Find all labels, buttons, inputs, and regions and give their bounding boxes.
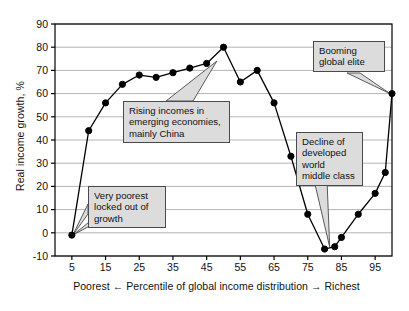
y-tick-label-60: 60 xyxy=(36,87,48,99)
data-point xyxy=(153,74,159,80)
annotation-tail-booming xyxy=(347,73,390,94)
x-tick-label-85: 85 xyxy=(336,261,348,273)
y-axis-ticks: -100102030405060708090 xyxy=(33,18,55,262)
x-tick-label-15: 15 xyxy=(100,261,112,273)
data-point xyxy=(338,234,344,240)
data-point xyxy=(254,67,260,73)
data-point xyxy=(119,81,125,87)
annotation-decline-middle-class: Decline of developed world middle class xyxy=(296,132,363,186)
data-point xyxy=(288,153,294,159)
y-tick-label-20: 20 xyxy=(36,180,48,192)
x-tick-label-75: 75 xyxy=(302,261,314,273)
data-point xyxy=(332,244,338,250)
annotation-very-poorest: Very poorest locked out of growth xyxy=(88,186,166,228)
x-tick-label-55: 55 xyxy=(235,261,247,273)
data-point xyxy=(187,65,193,71)
data-point xyxy=(389,91,395,97)
data-point xyxy=(136,72,142,78)
data-point xyxy=(237,79,243,85)
x-tick-label-95: 95 xyxy=(369,261,381,273)
x-tick-label-35: 35 xyxy=(167,261,179,273)
data-point xyxy=(382,169,388,175)
y-tick-label-30: 30 xyxy=(36,157,48,169)
data-point xyxy=(204,60,210,66)
data-point xyxy=(170,70,176,76)
data-point xyxy=(220,44,226,50)
y-tick-label-80: 80 xyxy=(36,41,48,53)
x-tick-label-25: 25 xyxy=(133,261,145,273)
annotation-tail-decline xyxy=(314,180,330,247)
data-point xyxy=(355,211,361,217)
y-tick-label-70: 70 xyxy=(36,64,48,76)
data-point xyxy=(86,128,92,134)
y-tick-label-10: 10 xyxy=(36,203,48,215)
y-tick-label-0: 0 xyxy=(42,227,48,239)
data-point xyxy=(69,232,75,238)
x-tick-label-45: 45 xyxy=(201,261,213,273)
x-tick-label-5: 5 xyxy=(69,261,75,273)
x-axis-title: Poorest ← Percentile of global income di… xyxy=(0,280,409,292)
annotation-booming-global-elite: Booming global elite xyxy=(313,41,385,72)
data-point xyxy=(271,100,277,106)
elephant-chart: Real income growth, % -10010203040506070… xyxy=(0,0,409,311)
annotation-rising-incomes: Rising incomes in emerging economies, ma… xyxy=(123,101,230,143)
data-point xyxy=(102,100,108,106)
x-axis-ticks: 5152535455565758595 xyxy=(69,256,381,273)
data-point xyxy=(305,211,311,217)
y-tick-label-90: 90 xyxy=(36,18,48,30)
y-tick-label-40: 40 xyxy=(36,134,48,146)
data-point xyxy=(322,246,328,252)
y-tick-label--10: -10 xyxy=(33,250,48,262)
x-tick-label-65: 65 xyxy=(268,261,280,273)
y-tick-label-50: 50 xyxy=(36,111,48,123)
data-point xyxy=(372,190,378,196)
